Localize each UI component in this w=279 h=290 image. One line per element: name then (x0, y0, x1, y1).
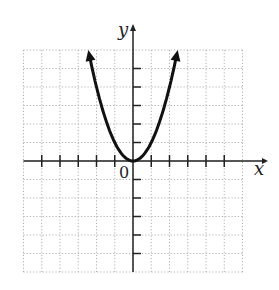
x-axis-label: x (254, 158, 264, 179)
y-axis-label: y (117, 19, 129, 40)
origin-label: 0 (119, 163, 129, 182)
parabola-chart: x y 0 (0, 0, 279, 290)
